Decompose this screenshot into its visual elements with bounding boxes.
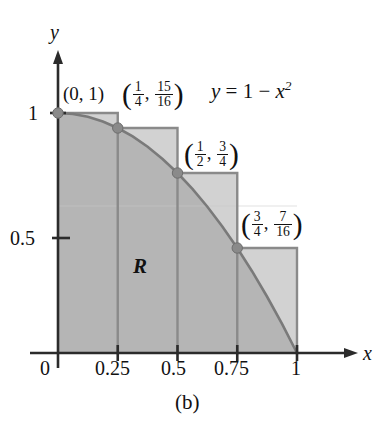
x-tick-label-1: 1 bbox=[291, 358, 301, 378]
y-axis-label: y bbox=[50, 22, 59, 42]
x-axis-label: x bbox=[363, 343, 372, 363]
fraction-one-half: 12 bbox=[195, 140, 206, 169]
equation-label: y = 1 − x2 bbox=[211, 79, 292, 102]
point-marker-half bbox=[172, 168, 182, 178]
plot-area bbox=[0, 0, 390, 446]
paren-open: ( bbox=[184, 140, 194, 169]
point-marker-three-quarter bbox=[232, 243, 242, 253]
paren-open: ( bbox=[122, 80, 132, 109]
y-tick-label-0.5: 0.5 bbox=[10, 228, 35, 248]
fraction-denominator: 2 bbox=[195, 155, 206, 169]
fraction-three-quarters: 34 bbox=[217, 140, 228, 169]
x-tick-label-0.5: 0.5 bbox=[161, 358, 186, 378]
x-tick-label-0: 0 bbox=[40, 358, 50, 378]
fraction-three-quarters: 34 bbox=[252, 210, 263, 239]
fraction-numerator: 3 bbox=[252, 210, 263, 225]
fraction-seven-sixteenths: 716 bbox=[274, 210, 292, 239]
fraction-numerator: 1 bbox=[133, 80, 144, 95]
fraction-one-quarter: 14 bbox=[133, 80, 144, 109]
paren-open: ( bbox=[241, 210, 251, 239]
fraction-denominator: 16 bbox=[274, 225, 292, 239]
comma: , bbox=[145, 82, 155, 103]
paren-close: ) bbox=[229, 140, 239, 169]
paren-close: ) bbox=[293, 210, 303, 239]
equation-constant: 1 bbox=[243, 79, 254, 103]
point-label-one-half: (12, 34) bbox=[184, 140, 239, 169]
y-tick-label-1: 1 bbox=[28, 103, 38, 123]
x-axis-arrowhead bbox=[344, 348, 358, 358]
equation-minus-sign: − bbox=[258, 79, 270, 103]
figure-caption: (b) bbox=[175, 392, 200, 413]
fraction-numerator: 15 bbox=[155, 80, 173, 95]
comma: , bbox=[264, 212, 274, 233]
fraction-numerator: 3 bbox=[217, 140, 228, 155]
x-tick-label-0.25: 0.25 bbox=[95, 358, 130, 378]
point-label-0-1: (0, 1) bbox=[63, 84, 104, 103]
point-marker-0-1 bbox=[53, 108, 63, 118]
equation-relation: = bbox=[226, 79, 238, 103]
figure-container: y x 1 0.5 0 0.25 0.5 0.75 1 (0, 1) (14, … bbox=[0, 0, 390, 446]
fraction-numerator: 1 bbox=[195, 140, 206, 155]
region-label-r: R bbox=[133, 256, 147, 277]
point-marker-quarter bbox=[113, 123, 123, 133]
fraction-denominator: 16 bbox=[155, 95, 173, 109]
paren-close: ) bbox=[174, 80, 184, 109]
equation-variable: x bbox=[276, 79, 285, 103]
fraction-denominator: 4 bbox=[252, 225, 263, 239]
equation-exponent: 2 bbox=[285, 78, 292, 93]
x-tick-label-0.75: 0.75 bbox=[214, 358, 249, 378]
comma: , bbox=[207, 142, 217, 163]
fraction-denominator: 4 bbox=[133, 95, 144, 109]
fraction-fifteen-sixteenths: 1516 bbox=[155, 80, 173, 109]
fraction-numerator: 7 bbox=[274, 210, 292, 225]
equation-lhs: y bbox=[211, 79, 220, 103]
fraction-denominator: 4 bbox=[217, 155, 228, 169]
y-axis-arrowhead bbox=[53, 50, 63, 64]
point-label-one-quarter: (14, 1516) bbox=[122, 80, 184, 109]
point-label-three-quarters: (34, 716) bbox=[241, 210, 303, 239]
